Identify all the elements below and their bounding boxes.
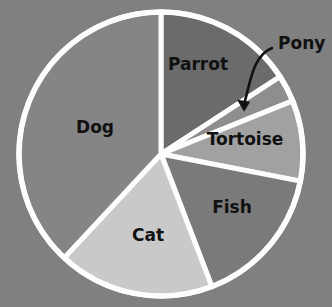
pie-chart-svg: ParrotTortoiseFishCatDog Pony <box>0 0 332 307</box>
pie-label-cat: Cat <box>132 225 164 245</box>
pie-label-tortoise: Tortoise <box>207 129 284 149</box>
pie-label-dog: Dog <box>76 117 114 137</box>
pie-label-pony: Pony <box>278 33 325 53</box>
pie-label-parrot: Parrot <box>168 54 228 74</box>
pie-chart-figure: ParrotTortoiseFishCatDog Pony <box>0 0 332 307</box>
pie-label-fish: Fish <box>212 197 252 217</box>
